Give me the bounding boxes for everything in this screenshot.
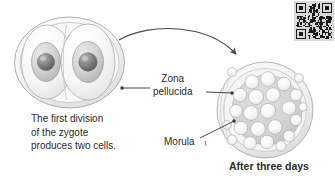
blastomere [244, 137, 257, 150]
blastomere [260, 135, 274, 149]
blastomere [276, 141, 286, 151]
figure-root: Zona pellucida Morula After three days T… [0, 0, 335, 179]
blastomere [299, 103, 307, 111]
blastomere [295, 74, 304, 83]
blastomere [248, 89, 263, 104]
blastomere [283, 130, 295, 142]
morula-tick-mark [205, 141, 206, 146]
blastomere [230, 105, 243, 118]
nucleolus-right [79, 53, 97, 71]
blastomere [277, 77, 291, 91]
caption-line3: produces two cells. [31, 140, 116, 151]
blastomere [268, 120, 282, 134]
label-after-three-days: After three days [229, 161, 309, 173]
nucleolus-left-highlight [40, 56, 46, 61]
blastomere [266, 88, 280, 102]
caption-first-division: The first division of the zygote produce… [31, 112, 116, 153]
blastomere [251, 122, 266, 137]
blastomere [261, 72, 276, 87]
label-zona-pellucida: Zona pellucida [153, 73, 192, 98]
blastomere [245, 75, 259, 89]
blastomere [227, 67, 236, 76]
blastomere [234, 121, 248, 135]
nucleolus-right-highlight [82, 56, 88, 61]
caption-line2: of the zygote [31, 127, 88, 138]
development-arrow [119, 28, 236, 54]
label-zona-line2: pellucida [153, 86, 192, 97]
blastomere [282, 101, 296, 115]
morula [217, 62, 313, 158]
blastomere [260, 103, 275, 118]
blastomere [244, 106, 259, 121]
label-morula: Morula [164, 136, 195, 148]
two-cell-zygote [15, 17, 125, 108]
blastomere [290, 89, 302, 101]
blastomere [290, 114, 301, 125]
blastomere [233, 88, 247, 102]
qr-code-canvas [296, 3, 332, 39]
caption-line1: The first division [31, 113, 103, 124]
qr-code[interactable] [294, 1, 334, 41]
nucleolus-left [37, 53, 54, 70]
label-zona-line1: Zona [161, 73, 184, 84]
